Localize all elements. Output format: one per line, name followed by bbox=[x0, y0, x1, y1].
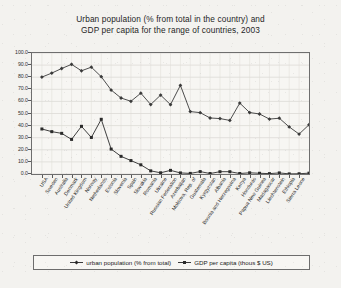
legend-item-gdp-per-capita: GDP per capita (thous $ US) bbox=[178, 259, 273, 266]
chart-title-line-2: GDP per capita for the range of countrie… bbox=[0, 25, 341, 36]
chart-title: Urban population (% from total in the co… bbox=[0, 14, 341, 36]
legend-label-gdp-per-capita: GDP per capita (thous $ US) bbox=[194, 259, 273, 266]
y-axis-tick-label: 10.0 bbox=[18, 158, 28, 164]
plot-area bbox=[31, 52, 310, 175]
y-axis-tick-label: 70.0 bbox=[18, 85, 28, 91]
legend-item-urban-population: urban population (% from total) bbox=[70, 259, 171, 266]
chart-page: Urban population (% from total in the co… bbox=[0, 0, 341, 288]
y-axis-tick-label: 20.0 bbox=[18, 146, 28, 152]
square-line-marker-icon bbox=[178, 259, 191, 266]
y-axis-tick-label: 50.0 bbox=[18, 110, 28, 116]
plot-svg bbox=[32, 53, 309, 174]
y-axis: 100.090.080.070.060.050.040.030.020.010.… bbox=[0, 46, 30, 182]
y-axis-tick-label: 80.0 bbox=[18, 73, 28, 79]
x-axis-labels: USASwedenAustraliaDenmarkUnited KingdomN… bbox=[0, 176, 341, 242]
y-axis-tick-label: 40.0 bbox=[18, 122, 28, 128]
y-axis-tick-label: 60.0 bbox=[18, 97, 28, 103]
y-axis-tick-label: 30.0 bbox=[18, 134, 28, 140]
chart-legend: urban population (% from total) GDP per … bbox=[33, 255, 310, 270]
chart-title-line-1: Urban population (% from total in the co… bbox=[0, 14, 341, 25]
y-axis-tick-label: 100.0 bbox=[15, 49, 28, 55]
legend-label-urban-population: urban population (% from total) bbox=[86, 259, 171, 266]
diamond-line-marker-icon bbox=[70, 259, 83, 266]
y-axis-tick-label: 90.0 bbox=[18, 61, 28, 67]
